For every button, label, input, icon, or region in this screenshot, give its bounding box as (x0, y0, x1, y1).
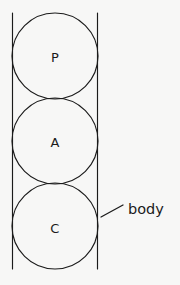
circle-label-c: C (50, 221, 59, 236)
stacked-circles-body-figure: P A C body (0, 0, 180, 285)
body-callout: body (101, 201, 164, 217)
callout-label-body: body (128, 201, 164, 217)
callout-leader-line (101, 205, 123, 217)
circle-labels: P A C (50, 50, 59, 236)
circle-label-a: A (50, 135, 59, 150)
circle-label-p: P (51, 50, 59, 65)
diagram-canvas: P A C body (0, 0, 180, 285)
